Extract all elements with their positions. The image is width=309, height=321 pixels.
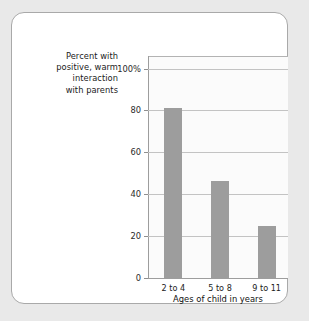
y-axis-caption-line-4: with parents [26,85,118,96]
x-tick-label: 2 to 4 [162,283,186,293]
y-tick-mark [144,69,148,70]
bar [164,108,182,278]
x-axis-title: Ages of child in years [148,294,288,304]
x-tick-label: 5 to 8 [208,283,232,293]
plot-area: 020406080100% 2 to 45 to 89 to 11 [148,56,288,279]
y-axis-caption: Percent with positive, warm interaction … [26,51,118,96]
y-tick-label: 40 [130,189,141,199]
x-tick-label: 9 to 11 [252,283,281,293]
bar [211,181,229,278]
y-axis-line [148,56,149,279]
chart-card: Percent with positive, warm interaction … [11,12,288,304]
y-tick-label: 100% [117,64,141,74]
y-tick-mark [144,152,148,153]
y-tick-label: 20 [130,231,141,241]
y-tick-mark [144,236,148,237]
figure-container: Percent with positive, warm interaction … [0,0,309,321]
y-tick-label: 60 [130,147,141,157]
y-axis-caption-line-1: Percent with [26,51,118,62]
bar [258,226,276,278]
gridline [148,69,288,70]
y-tick-mark [144,110,148,111]
x-axis-line [148,278,288,279]
y-tick-label: 80 [130,105,141,115]
y-axis-caption-line-3: interaction [26,73,118,84]
y-tick-mark [144,194,148,195]
y-tick-mark [144,278,148,279]
y-tick-label: 0 [136,273,141,283]
plot-top-frame [148,56,288,57]
y-axis-caption-line-2: positive, warm [26,62,118,73]
